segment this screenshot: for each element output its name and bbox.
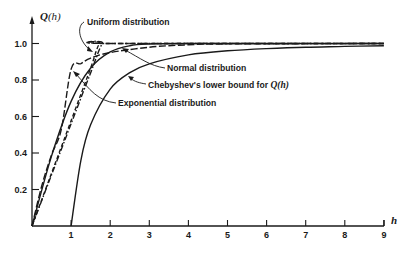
x-axis-ticks: 123456789: [69, 220, 387, 240]
y-axis-ticks: 0.20.40.60.81.0: [14, 39, 39, 195]
x-tick-label: 5: [225, 230, 230, 240]
y-tick-label: 0.4: [14, 148, 27, 158]
annotation-chebyshev: Chebyshev's lower bound for Q(h): [148, 80, 289, 91]
exponential-arrowhead-icon: [73, 71, 80, 77]
x-tick-label: 8: [342, 230, 347, 240]
y-tick-label: 0.2: [14, 185, 27, 195]
x-tick-label: 6: [264, 230, 269, 240]
x-tick-label: 9: [381, 230, 386, 240]
x-tick-label: 3: [147, 230, 152, 240]
x-tick-label: 7: [303, 230, 308, 240]
x-tick-label: 4: [186, 230, 191, 240]
y-tick-label: 0.8: [14, 75, 27, 85]
x-tick-label: 2: [108, 230, 113, 240]
y-tick-label: 1.0: [14, 39, 27, 49]
x-axis-title: h: [391, 214, 397, 226]
y-tick-label: 0.6: [14, 112, 27, 122]
uniform-arrowhead-icon: [87, 46, 93, 52]
annotation-exponential: Exponential distribution: [118, 98, 216, 108]
annotation-normal: Normal distribution: [167, 63, 246, 73]
y-axis-arrow-icon: [30, 16, 35, 24]
x-tick-label: 1: [69, 230, 74, 240]
annotation-uniform: Uniform distribution: [87, 17, 170, 27]
y-axis-title: Q(h): [40, 10, 61, 23]
axes: [30, 16, 385, 226]
cumulative-probability-chart: 0.20.40.60.81.0 123456789 Q(h) h Uniform…: [0, 0, 406, 253]
